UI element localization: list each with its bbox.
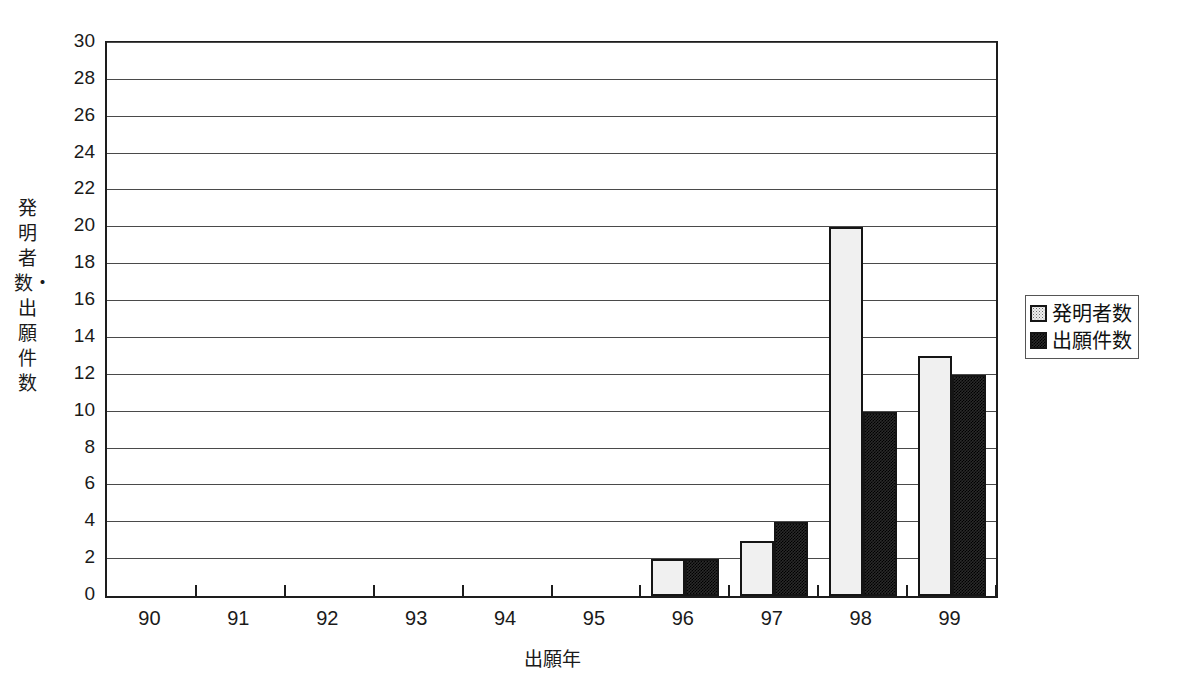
x-tick-mark [462,585,464,596]
x-tick-label: 98 [831,606,891,630]
y-tick-label: 6 [84,473,95,492]
y-tick-label: 4 [84,510,95,529]
x-tick-mark [995,585,997,596]
y-tick-label: 2 [84,547,95,566]
legend-label: 出願件数 [1052,330,1132,352]
y-tick-label: 0 [84,584,95,603]
legend-swatch-icon [1030,305,1047,322]
x-tick-mark [728,585,730,596]
y-tick-label: 10 [74,400,95,419]
x-tick-label: 97 [742,606,802,630]
x-tick-label: 93 [386,606,446,630]
x-axis-tick-labels: 90919293949596979899 [105,606,998,640]
legend-item: 発明者数 [1030,300,1132,327]
legend-label: 発明者数 [1052,303,1132,325]
x-tick-mark [906,585,908,596]
gridline [107,42,996,43]
y-tick-label: 18 [74,252,95,271]
bar [685,559,719,596]
y-tick-label: 22 [74,178,95,197]
y-axis-title: 発明者数・出願件数 [14,196,40,396]
gridline [107,153,996,154]
bar [740,541,774,596]
gridline [107,226,996,227]
x-tick-mark [195,585,197,596]
bar [918,356,952,596]
y-tick-label: 12 [74,363,95,382]
chart-title [0,0,1178,6]
x-tick-mark [817,585,819,596]
x-tick-label: 96 [653,606,713,630]
plot-area [105,41,998,598]
bar [829,227,863,596]
legend-swatch-icon [1030,332,1047,349]
chart-figure: 024681012141618202224262830 発明者数・出願件数 90… [0,0,1178,694]
x-tick-label: 95 [564,606,624,630]
y-tick-label: 24 [74,142,95,161]
gridline [107,263,996,264]
gridline [107,337,996,338]
bar [651,559,685,596]
chart-legend: 発明者数出願件数 [1025,295,1139,359]
x-tick-label: 90 [119,606,179,630]
y-tick-label: 30 [74,31,95,50]
x-tick-mark [284,585,286,596]
bar [863,412,897,596]
x-tick-label: 94 [475,606,535,630]
gridline [107,79,996,80]
bar [774,522,808,596]
gridline [107,374,996,375]
y-tick-label: 20 [74,215,95,234]
x-tick-label: 91 [208,606,268,630]
x-tick-mark [373,585,375,596]
y-tick-label: 16 [74,289,95,308]
y-tick-label: 14 [74,326,95,345]
gridline [107,116,996,117]
gridline [107,189,996,190]
y-tick-label: 28 [74,68,95,87]
x-axis-title: 出願年 [0,648,1105,672]
legend-item: 出願件数 [1030,327,1132,354]
x-tick-label: 99 [920,606,980,630]
bar [952,375,986,596]
x-tick-mark [639,585,641,596]
gridline [107,300,996,301]
x-tick-mark [551,585,553,596]
y-tick-label: 26 [74,105,95,124]
x-tick-label: 92 [297,606,357,630]
y-tick-label: 8 [84,437,95,456]
